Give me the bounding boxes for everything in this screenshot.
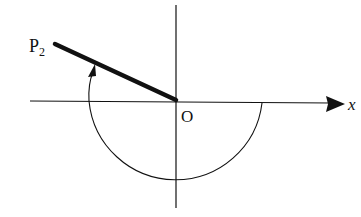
origin-label: O [181, 107, 193, 126]
segment-op2 [55, 44, 176, 100]
arc-arrowhead-icon [88, 64, 96, 77]
x-axis-arrowhead-icon [326, 96, 345, 112]
x-axis-label: x [347, 95, 356, 114]
x-axis [30, 101, 332, 103]
point-label-p2: P2 [29, 36, 45, 59]
polar-angle-diagram: P2 O x [0, 0, 361, 217]
